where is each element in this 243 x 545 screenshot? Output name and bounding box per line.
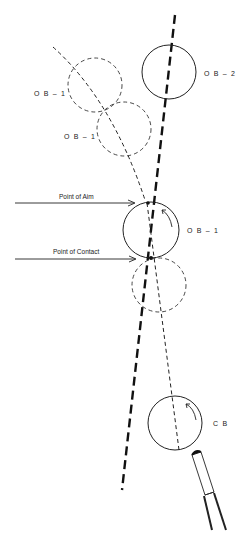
cb-spin-arrow-icon xyxy=(186,404,196,420)
ob1-ghost-lower xyxy=(97,102,151,156)
ob1-path-curve xyxy=(53,47,145,200)
cue-ball xyxy=(148,396,202,450)
ob1-spin-arrow-icon xyxy=(162,210,172,227)
ob1-label: O B – 1 xyxy=(187,227,219,234)
point-of-aim-dot xyxy=(146,201,150,205)
point-of-contact-label: Point of Contact xyxy=(53,248,99,255)
cue-stick xyxy=(192,451,226,530)
cb-label: C B xyxy=(213,420,228,427)
point-of-contact-dot xyxy=(149,256,153,260)
point-of-aim-label: Point of Aim xyxy=(59,193,94,200)
ob1-ghost-upper-label: O B – 1 xyxy=(34,90,66,97)
ob2-label: O B – 2 xyxy=(204,70,236,77)
ob1-ghost-lower-label: O B – 1 xyxy=(64,133,96,140)
ob1-ghost-upper xyxy=(68,58,122,112)
cb-ghost-ball xyxy=(132,258,186,312)
billiards-diagram: O B – 2 O B – 1 O B – 1 O B – 1 Point of… xyxy=(0,0,243,545)
cb-path-line xyxy=(147,203,179,450)
